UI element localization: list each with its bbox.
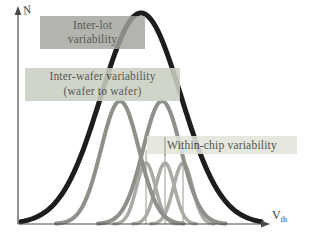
inter-lot-variability-label: Inter-lot variability	[40, 16, 145, 49]
vth-variability-diagram: Inter-lot variability Inter-wafer variab…	[0, 0, 310, 243]
inter-lot-label-line2: variability	[40, 32, 145, 46]
x-axis-label-main: V	[272, 208, 281, 222]
y-axis-arrow-icon	[15, 6, 22, 15]
x-axis-arrow-icon	[261, 221, 270, 228]
within-chip-label-line1: Within-chip variability	[147, 136, 297, 154]
within-chip-variability-label: Within-chip variability	[147, 136, 297, 154]
inter-lot-label-line1: Inter-lot	[40, 18, 145, 32]
x-axis-label-subscript: th	[281, 215, 287, 224]
inter-wafer-label-line2: (wafer to wafer)	[25, 84, 180, 99]
inter-wafer-variability-label: Inter-wafer variability (wafer to wafer)	[25, 68, 180, 101]
inter-wafer-label-line1: Inter-wafer variability	[25, 69, 180, 84]
x-axis-label: Vth	[272, 208, 287, 224]
